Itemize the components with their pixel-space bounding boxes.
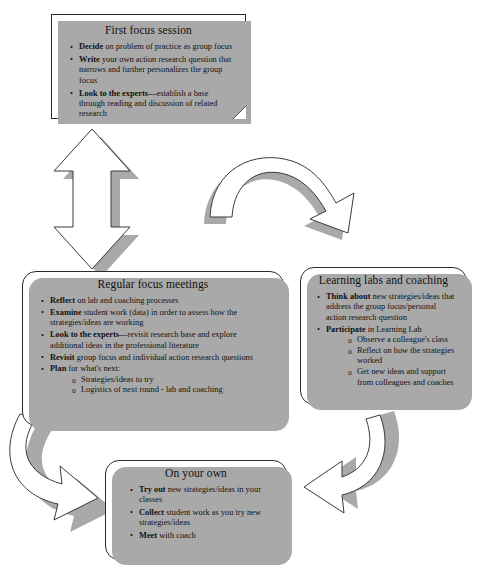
sub-list-item: Observe a colleague's class bbox=[348, 335, 456, 346]
bullet-lead: Revisit bbox=[50, 353, 75, 362]
sub-bullet-list: Strategies/ideas to try Logistics of nex… bbox=[50, 375, 271, 396]
bullet-list-regular-focus-meetings: Reflect on lab and coaching processes Ex… bbox=[23, 296, 283, 396]
list-item: Look to the experts—establish a base thr… bbox=[70, 89, 235, 120]
bullet-lead: Examine bbox=[50, 308, 82, 317]
bullet-rest: group focus and individual action resear… bbox=[75, 353, 253, 362]
bullet-lead: Look to the experts bbox=[50, 330, 119, 339]
list-item: Plan for what's next: Strategies/ideas t… bbox=[41, 364, 271, 396]
double-headed-vertical-arrow bbox=[52, 127, 162, 272]
bullet-lead: Decide bbox=[79, 42, 103, 51]
bullet-list-learning-labs-and-coaching: Think about new strategies/ideas that ad… bbox=[301, 292, 466, 388]
bullet-lead: Look to the experts bbox=[79, 89, 148, 98]
bullet-list-on-your-own: Try out new strategies/ideas in your cla… bbox=[106, 485, 286, 541]
bullet-rest: on lab and coaching processes bbox=[75, 296, 179, 305]
bullet-rest: with coach bbox=[157, 531, 196, 540]
list-item: Think about new strategies/ideas that ad… bbox=[317, 292, 456, 323]
folded-corner bbox=[233, 106, 246, 119]
box-title-on-your-own: On your own bbox=[106, 467, 286, 479]
box-title-regular-focus-meetings: Regular focus meetings bbox=[23, 278, 283, 290]
sub-list-item: Strategies/ideas to try bbox=[72, 375, 271, 386]
bullet-lead: Collect bbox=[139, 508, 164, 517]
bullet-lead: Participate bbox=[326, 325, 366, 334]
list-item: Meet with coach bbox=[130, 531, 274, 541]
bullet-rest: for what's next: bbox=[66, 364, 120, 373]
list-item: Look to the experts—revisit research bas… bbox=[41, 330, 271, 351]
box-on-your-own: On your own Try out new strategies/ideas… bbox=[105, 460, 287, 560]
list-item: Reflect on lab and coaching processes bbox=[41, 296, 271, 306]
sub-list-item: Logistics of next round - lab and coachi… bbox=[72, 385, 271, 396]
bullet-lead: Think about bbox=[326, 292, 370, 301]
list-item: Revisit group focus and individual actio… bbox=[41, 353, 271, 363]
list-item: Examine student work (data) in order to … bbox=[41, 308, 271, 329]
box-regular-focus-meetings: Regular focus meetings Reflect on lab an… bbox=[22, 271, 284, 426]
box-title-learning-labs-and-coaching: Learning labs and coaching bbox=[301, 274, 466, 286]
diagram-canvas: First focus session Decide on problem of… bbox=[0, 0, 478, 579]
list-item: Decide on problem of practice as group f… bbox=[70, 42, 235, 52]
bullet-rest: your own action research question that n… bbox=[79, 55, 231, 85]
bullet-lead: Try out bbox=[139, 485, 166, 494]
bullet-lead: Plan bbox=[50, 364, 66, 373]
list-item: Try out new strategies/ideas in your cla… bbox=[130, 485, 274, 506]
curved-arrow-down-left bbox=[288, 405, 413, 525]
bullet-lead: Reflect bbox=[50, 296, 75, 305]
bullet-list-first-focus-session: Decide on problem of practice as group f… bbox=[52, 42, 245, 120]
list-item: Participate in Learning Lab Observe a co… bbox=[317, 325, 456, 388]
bullet-rest: in Learning Lab bbox=[366, 325, 422, 334]
bullet-lead: Write bbox=[79, 55, 100, 64]
bullet-rest: on problem of practice as group focus bbox=[103, 42, 232, 51]
sub-bullet-list: Observe a colleague's class Reflect on h… bbox=[326, 335, 456, 388]
sub-list-item: Get new ideas and support from colleague… bbox=[348, 367, 456, 388]
bullet-lead: Meet bbox=[139, 531, 157, 540]
list-item: Write your own action research question … bbox=[70, 55, 235, 86]
box-title-first-focus-session: First focus session bbox=[52, 24, 245, 36]
list-item: Collect student work as you try new stra… bbox=[130, 508, 274, 529]
curved-arrow-right-down bbox=[196, 145, 386, 250]
box-learning-labs-and-coaching: Learning labs and coaching Think about n… bbox=[300, 267, 467, 405]
sub-list-item: Reflect on how the strategies worked bbox=[348, 346, 456, 367]
box-first-focus-session: First focus session Decide on problem of… bbox=[51, 14, 246, 119]
